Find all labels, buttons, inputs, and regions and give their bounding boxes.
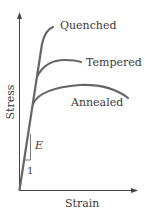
tempered-label: Tempered bbox=[86, 56, 142, 69]
quenched-curve bbox=[20, 27, 54, 190]
stress-strain-diagram: Quenched Tempered Annealed E 1 Strain St… bbox=[0, 0, 145, 214]
y-axis-arrow-icon bbox=[17, 12, 22, 19]
annealed-label: Annealed bbox=[70, 96, 123, 109]
unit-label: 1 bbox=[27, 165, 33, 176]
modulus-label: E bbox=[34, 139, 43, 152]
x-axis-arrow-icon bbox=[131, 188, 138, 193]
x-axis-label: Strain bbox=[65, 197, 99, 210]
y-axis-label: Stress bbox=[4, 84, 17, 119]
tempered-curve bbox=[37, 60, 81, 77]
quenched-label: Quenched bbox=[60, 19, 117, 32]
